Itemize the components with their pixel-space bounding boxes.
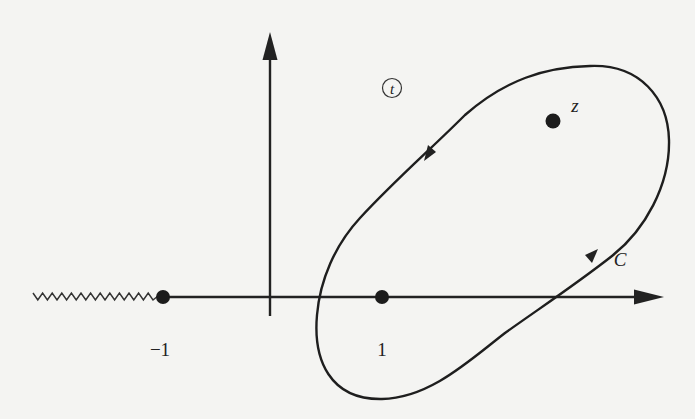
point-one <box>375 290 389 304</box>
label-z: z <box>570 95 579 116</box>
contour-direction-arrow-icon <box>585 249 598 263</box>
contour-diagram: −1 1 z C t <box>0 0 695 419</box>
plane-label-text: t <box>390 81 395 97</box>
imaginary-axis-arrow-icon <box>263 32 278 60</box>
plane-label: t <box>383 79 402 98</box>
point-z <box>546 114 561 129</box>
real-axis-arrow-icon <box>634 290 664 305</box>
label-minus-one: −1 <box>150 339 170 360</box>
label-contour-c: C <box>614 249 627 270</box>
imaginary-axis <box>263 32 278 316</box>
contour-c <box>316 66 669 399</box>
real-axis <box>160 290 664 305</box>
label-one: 1 <box>377 339 387 360</box>
branch-cut-zigzag <box>33 293 158 300</box>
point-minus-one <box>156 290 170 304</box>
